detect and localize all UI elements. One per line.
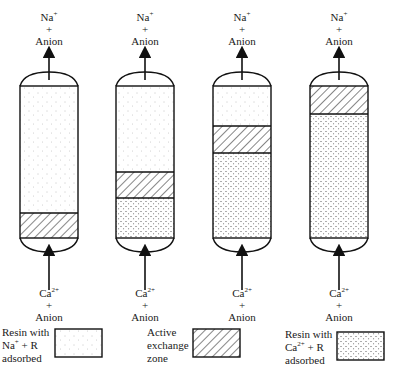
- active-exchange-zone: [116, 172, 174, 198]
- inlet-label: Ca2++Anion: [110, 287, 180, 323]
- legend-label-ca-resin: Resin with Ca2+ + R adsorbed: [285, 328, 332, 367]
- active-exchange-zone: [20, 213, 78, 238]
- ion-exchange-column-3: [213, 52, 271, 290]
- ca-resin-zone: [116, 198, 174, 238]
- legend-label-na-resin: Resin with Na+ + R adsorbed: [2, 326, 49, 365]
- inlet-label: Ca2++Anion: [14, 287, 84, 323]
- inlet-label: Ca2++Anion: [304, 287, 374, 323]
- bottom-dome: [20, 238, 78, 252]
- na-resin-zone: [20, 86, 78, 213]
- legend-swatch-na-resin: [55, 329, 102, 357]
- ion-exchange-column-1: [20, 52, 78, 290]
- na-resin-zone: [213, 86, 271, 126]
- ion-exchange-column-2: [116, 52, 174, 290]
- legend-swatch-ca-resin: [337, 332, 384, 360]
- legend-label-active-zone: Active exchange zone: [147, 326, 189, 365]
- active-exchange-zone: [213, 126, 271, 153]
- na-resin-zone: [116, 86, 174, 172]
- ca-resin-zone: [310, 114, 368, 238]
- outlet-label: Na++Anion: [14, 11, 84, 47]
- ion-exchange-column-4: [310, 52, 368, 290]
- bottom-dome: [310, 238, 368, 252]
- bottom-dome: [116, 238, 174, 252]
- ca-resin-zone: [213, 153, 271, 238]
- outlet-label: Na++Anion: [110, 11, 180, 47]
- inlet-label: Ca2++Anion: [207, 287, 277, 323]
- active-exchange-zone: [310, 86, 368, 114]
- bottom-dome: [213, 238, 271, 252]
- outlet-label: Na++Anion: [207, 11, 277, 47]
- legend-swatch-active-zone: [193, 329, 240, 357]
- outlet-label: Na++Anion: [304, 11, 374, 47]
